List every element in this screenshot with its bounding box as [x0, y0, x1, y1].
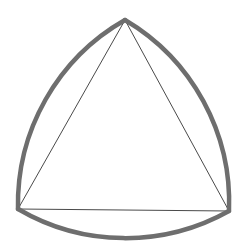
triangle-edge-right — [125, 20, 229, 211]
reuleaux-arcs — [18, 20, 229, 238]
triangle-edge-bottom — [18, 209, 229, 211]
reuleaux-triangle-diagram — [0, 0, 246, 252]
triangle-edge-left — [18, 20, 125, 209]
arc-bottom — [18, 209, 229, 238]
inscribed-triangle — [18, 20, 229, 211]
